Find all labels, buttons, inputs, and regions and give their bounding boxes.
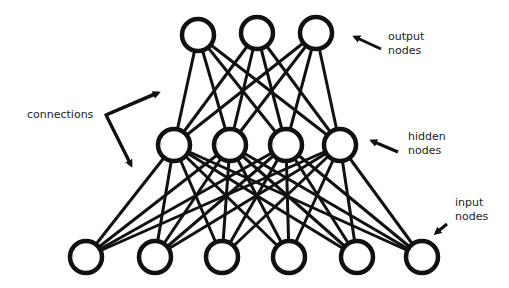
hidden-arrow-icon <box>372 141 398 152</box>
connections-label: connections <box>27 108 93 122</box>
input-node <box>139 241 171 273</box>
input-arrow-icon <box>436 224 447 233</box>
output-node <box>300 17 332 49</box>
hidden-node <box>324 129 356 161</box>
output-nodes-label: output nodes <box>388 30 424 58</box>
output-node <box>241 17 273 49</box>
connections <box>86 33 422 257</box>
hidden-node <box>214 129 246 161</box>
hidden-nodes-label: hidden nodes <box>408 130 446 158</box>
hidden-node <box>158 129 190 161</box>
input-node <box>406 241 438 273</box>
input-nodes-label: input nodes <box>455 196 488 224</box>
input-node <box>206 241 238 273</box>
hidden-node <box>270 129 302 161</box>
output-node <box>182 19 214 51</box>
input-node <box>341 241 373 273</box>
connection <box>86 145 286 257</box>
output-arrow-icon <box>355 37 381 49</box>
input-node <box>70 241 102 273</box>
input-node <box>273 241 305 273</box>
